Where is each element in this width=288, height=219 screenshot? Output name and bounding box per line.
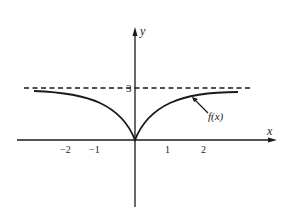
x-tick-minus-1: −1 xyxy=(89,144,100,155)
x-tick-2: 2 xyxy=(201,144,206,155)
x-tick-1: 1 xyxy=(165,144,170,155)
chart-canvas: y x 3 −2 −1 1 2 f(x) xyxy=(0,0,288,219)
y-axis-arrow-icon xyxy=(133,27,138,36)
x-axis-arrow-icon xyxy=(268,138,277,143)
x-tick-minus-2: −2 xyxy=(60,144,71,155)
x-axis-label: x xyxy=(266,124,273,138)
pointer-arrow-icon xyxy=(192,97,198,102)
f-label: f(x) xyxy=(208,110,224,123)
y-axis-label: y xyxy=(139,24,146,38)
y-tick-3: 3 xyxy=(126,82,132,94)
